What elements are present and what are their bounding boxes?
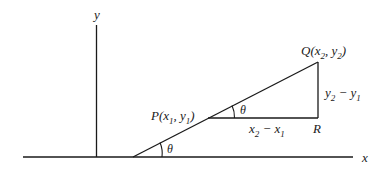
slope-diagram: x y θ θ P(x1, y1) Q(x2, y2) R x2 − x1 y2… (0, 0, 386, 169)
run-label: x2 − x1 (248, 121, 285, 139)
angle-arc-x-axis (160, 143, 162, 158)
angle-arc-P (232, 106, 235, 119)
y-axis-label: y (92, 7, 100, 22)
theta-label-x-axis: θ (167, 142, 173, 156)
rise-label: y2 − y1 (323, 85, 361, 103)
x-axis-label: x (361, 150, 368, 165)
point-R-label: R (312, 121, 321, 136)
theta-label-P: θ (240, 103, 246, 117)
point-Q-label: Q(x2, y2) (301, 43, 346, 61)
point-P-label: P(x1, y1) (150, 108, 195, 126)
